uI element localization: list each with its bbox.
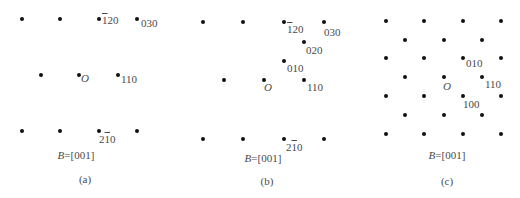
diffraction-spot <box>442 113 446 117</box>
diffraction-spot <box>422 132 426 136</box>
diffraction-spot <box>403 75 407 79</box>
diffraction-spot <box>480 75 484 79</box>
diffraction-spot <box>384 19 388 23</box>
diffraction-spot <box>422 56 426 60</box>
panel-c: 010 O 110 100 B=[001] (c) <box>0 0 520 198</box>
diffraction-spot <box>422 94 426 98</box>
diffraction-spot <box>384 132 388 136</box>
diffraction-spot <box>480 38 484 42</box>
diffraction-spot <box>499 56 503 60</box>
caption-c: (c) <box>441 175 453 187</box>
diffraction-spot <box>499 94 503 98</box>
diffraction-spot <box>480 113 484 117</box>
diffraction-spot <box>422 19 426 23</box>
origin-spot <box>442 75 446 79</box>
diffraction-spot <box>384 94 388 98</box>
diffraction-spot <box>461 56 465 60</box>
diffraction-spot <box>461 19 465 23</box>
diffraction-spot <box>403 113 407 117</box>
spot-label-010: 010 <box>466 58 483 69</box>
spot-label-100: 100 <box>463 99 480 110</box>
diffraction-spot <box>499 19 503 23</box>
diffraction-spot <box>461 132 465 136</box>
spot-label-110: 110 <box>485 79 501 90</box>
zone-axis-label: B=[001] <box>429 149 466 161</box>
diffraction-spot <box>403 38 407 42</box>
diffraction-spot <box>384 56 388 60</box>
origin-label: O <box>443 81 451 92</box>
diffraction-spot <box>442 38 446 42</box>
diffraction-spot <box>499 132 503 136</box>
zone-axis-value: =[001] <box>435 149 465 161</box>
zone-axis-symbol: B <box>429 149 436 161</box>
